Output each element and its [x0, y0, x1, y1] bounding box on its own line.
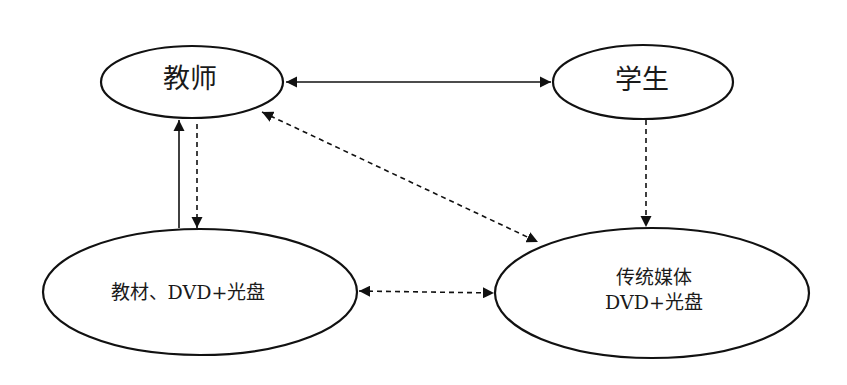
materials-label: 教材、DVD+光盘	[111, 280, 266, 305]
edge-materials-traditional-media	[359, 291, 494, 293]
teacher-label: 教师	[163, 61, 217, 96]
traditional-media-label: 传统媒体 DVD+光盘	[605, 265, 703, 314]
traditional-media-label-line1: 传统媒体	[605, 265, 703, 290]
student-label: 学生	[615, 62, 669, 97]
traditional-media-label-line2: DVD+光盘	[605, 290, 703, 315]
diagram-canvas	[0, 0, 847, 385]
edge-teacher-traditional-media	[262, 112, 538, 242]
